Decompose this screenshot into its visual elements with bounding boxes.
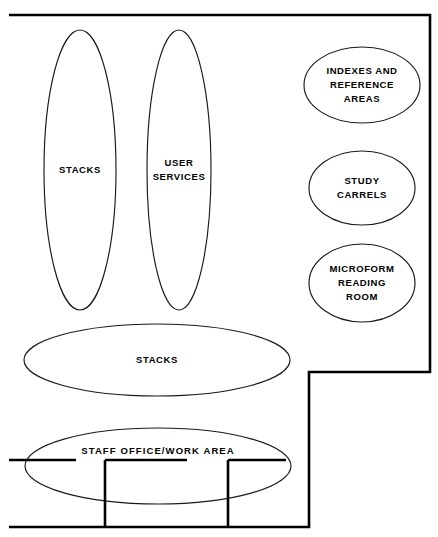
- zone-label-user-services-line1: USER: [165, 157, 194, 168]
- zone-label-microform-line1: MICROFORM: [329, 263, 394, 274]
- zone-label-indexes-reference-line1: INDEXES AND: [326, 65, 397, 76]
- zone-ellipse-staff-office[interactable]: [25, 428, 291, 504]
- zone-label-staff-office: STAFF OFFICE/WORK AREA: [81, 445, 235, 456]
- zone-label-study-carrels-line2: CARRELS: [337, 189, 387, 200]
- floor-plan-diagram: STACKS USER SERVICES INDEXES AND REFEREN…: [0, 0, 438, 537]
- zone-label-study-carrels-line1: STUDY: [344, 175, 379, 186]
- floor-plan-canvas: STACKS USER SERVICES INDEXES AND REFEREN…: [0, 0, 438, 537]
- zone-label-indexes-reference-line2: REFERENCE: [330, 79, 394, 90]
- zone-label-stacks-lower: STACKS: [136, 354, 178, 365]
- zone-label-stacks-left: STACKS: [59, 164, 101, 175]
- zone-label-microform-line3: ROOM: [346, 291, 378, 302]
- zone-label-user-services-line2: SERVICES: [153, 171, 206, 182]
- zone-label-indexes-reference-line3: AREAS: [344, 93, 380, 104]
- zone-label-microform-line2: READING: [338, 277, 386, 288]
